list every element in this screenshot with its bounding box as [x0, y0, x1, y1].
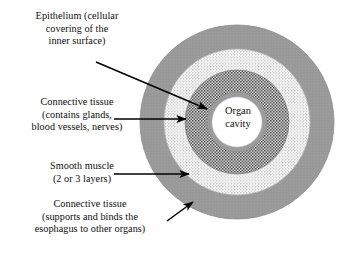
callout-epithelium-line-1: Epithelium (cellular [6, 10, 148, 23]
callout-epithelium-line-3: inner surface) [6, 35, 148, 48]
callout-connective-tissue-inner-line-3: blood vessels, nerves) [2, 121, 152, 134]
organ-cavity-label: Organ cavity [208, 104, 268, 130]
callout-connective-tissue-outer-line-3: esophagus to other organs) [2, 223, 178, 236]
callout-connective-tissue-inner-line-2: (contains glands, [2, 109, 152, 122]
callout-epithelium: Epithelium (cellular covering of the inn… [6, 10, 148, 48]
callout-smooth-muscle-line-2: (2 or 3 layers) [14, 173, 150, 186]
organ-cavity-label-line-1: Organ [208, 104, 268, 117]
callout-connective-tissue-outer-line-1: Connective tissue [2, 198, 178, 211]
callout-connective-tissue-outer: Connective tissue (supports and binds th… [2, 198, 178, 236]
callout-connective-tissue-inner: Connective tissue (contains glands, bloo… [2, 96, 152, 134]
callout-connective-tissue-inner-line-1: Connective tissue [2, 96, 152, 109]
callout-smooth-muscle-line-1: Smooth muscle [14, 160, 150, 173]
callout-smooth-muscle: Smooth muscle (2 or 3 layers) [14, 160, 150, 185]
figure-root: Epithelium (cellular covering of the inn… [0, 0, 354, 256]
callout-epithelium-line-2: covering of the [6, 23, 148, 36]
callout-connective-tissue-outer-line-2: (supports and binds the [2, 211, 178, 224]
organ-cavity-label-line-2: cavity [208, 117, 268, 130]
